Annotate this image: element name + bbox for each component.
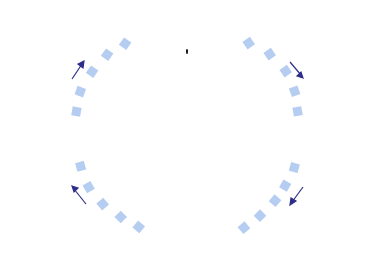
cycle-ring [0, 0, 377, 261]
cycle-arrows [72, 61, 303, 205]
cycle-dots [71, 37, 303, 234]
